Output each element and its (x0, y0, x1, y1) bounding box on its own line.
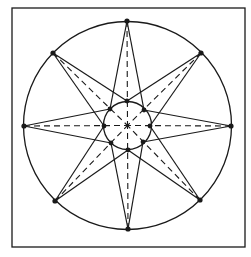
diagram-canvas (0, 0, 251, 257)
outer-vertex-dot-bottom-left (52, 198, 57, 203)
star-edge-right-to-bottom-right (143, 126, 231, 142)
dashed-line-bottom (128, 126, 129, 230)
dashed-line-top-left (53, 53, 128, 126)
inner-vertex-dot-bottom (126, 148, 131, 153)
inner-vertex-dot-top (125, 99, 130, 104)
dashed-line-bottom-left (55, 126, 128, 202)
inner-vertex-dot-top-right (142, 108, 147, 113)
outer-vertex-dot-top (124, 18, 129, 23)
star-edge-top-to-top-right (127, 21, 144, 110)
inner-vertex-dot-bottom-left (109, 141, 114, 146)
star-edge-bottom-right-to-right (150, 126, 200, 200)
star-edge-left-to-top-left (24, 109, 110, 126)
dashed-line-top-right (128, 53, 202, 126)
dashed-line-left (24, 126, 128, 127)
outer-vertex-dot-bottom (125, 226, 130, 231)
outer-vertex-dot-left (21, 123, 26, 128)
outer-vertex-dot-right (228, 123, 233, 128)
inner-vertex-dot-top-left (108, 107, 113, 112)
outer-vertex-dot-top-right (198, 50, 203, 55)
star-edge-bottom-right-to-bottom (128, 150, 200, 200)
star-edge-right-to-top-right (144, 110, 231, 126)
inner-vertex-dot-right (148, 124, 153, 129)
star-construction-diagram (0, 0, 251, 257)
frame-border (12, 8, 245, 247)
outer-vertex-dot-bottom-right (197, 197, 202, 202)
inner-vertex-dot-left (102, 124, 107, 129)
dashed-line-top (127, 21, 128, 126)
dashed-line-right (128, 126, 232, 127)
inner-vertex-dot-bottom-right (141, 140, 146, 145)
outer-vertex-dot-top-left (50, 50, 55, 55)
dashed-line-bottom-right (128, 126, 201, 201)
star-edge-top-right-to-right (150, 53, 201, 126)
